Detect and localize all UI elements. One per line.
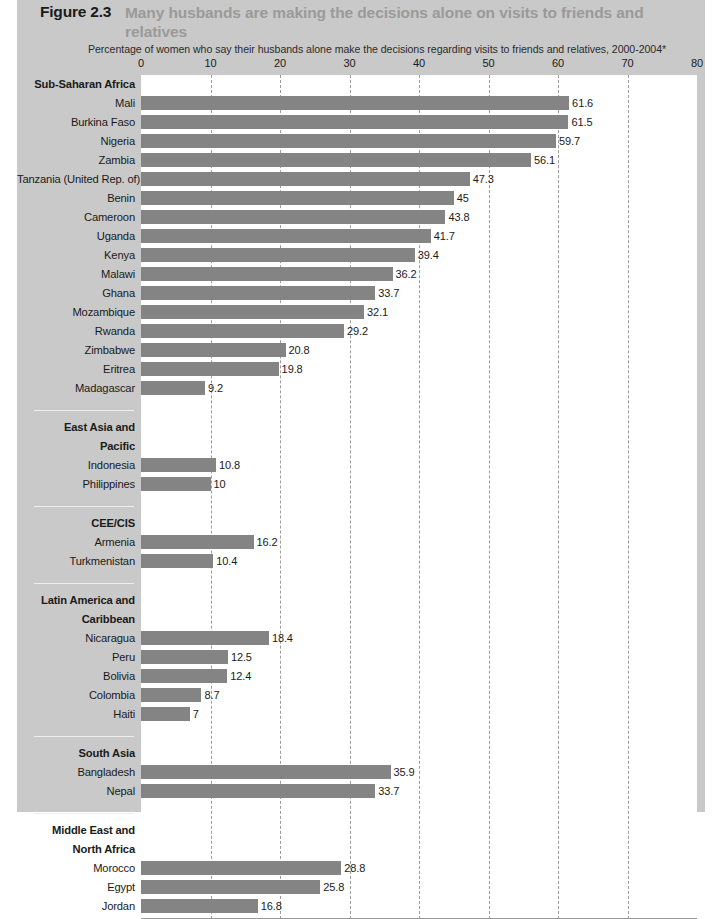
data-bar[interactable] bbox=[141, 880, 320, 894]
chart-row[interactable]: Ghana33.7 bbox=[0, 284, 721, 303]
chart-row[interactable]: Indonesia10.8 bbox=[0, 456, 721, 475]
chart-row[interactable]: Burkina Faso61.5 bbox=[0, 113, 721, 132]
bar-value-label: 20.8 bbox=[289, 341, 310, 360]
data-bar[interactable] bbox=[141, 229, 431, 243]
bar-value-label: 41.7 bbox=[434, 227, 455, 246]
country-label: Benin bbox=[17, 189, 135, 208]
chart-row[interactable]: Uganda41.7 bbox=[0, 227, 721, 246]
data-bar[interactable] bbox=[141, 286, 375, 300]
bar-value-label: 16.2 bbox=[257, 533, 278, 552]
data-bar[interactable] bbox=[141, 784, 375, 798]
chart-row[interactable]: Madagascar9.2 bbox=[0, 379, 721, 398]
data-bar[interactable] bbox=[141, 535, 254, 549]
country-label: Philippines bbox=[17, 475, 135, 494]
x-tick-label: 80 bbox=[682, 57, 712, 69]
region-label: East Asia and bbox=[17, 418, 135, 437]
bar-value-label: 19.8 bbox=[282, 360, 303, 379]
country-label: Zimbabwe bbox=[17, 341, 135, 360]
bar-value-label: 43.8 bbox=[448, 208, 469, 227]
country-label: Mozambique bbox=[17, 303, 135, 322]
region-heading-row: South Asia bbox=[0, 744, 721, 763]
region-separator bbox=[34, 736, 134, 737]
chart-row[interactable]: Egypt25.8 bbox=[0, 878, 721, 897]
data-bar[interactable] bbox=[141, 96, 569, 110]
data-bar[interactable] bbox=[141, 381, 205, 395]
bar-value-label: 28.8 bbox=[344, 859, 365, 878]
country-label: Nepal bbox=[17, 782, 135, 801]
chart-row[interactable]: Nigeria59.7 bbox=[0, 132, 721, 151]
chart-row[interactable]: Mali61.6 bbox=[0, 94, 721, 113]
chart-row[interactable]: Nepal33.7 bbox=[0, 782, 721, 801]
data-bar[interactable] bbox=[141, 477, 211, 491]
data-bar[interactable] bbox=[141, 688, 201, 702]
chart-row[interactable]: Mozambique32.1 bbox=[0, 303, 721, 322]
data-bar[interactable] bbox=[141, 631, 269, 645]
data-bar[interactable] bbox=[141, 362, 279, 376]
chart-row[interactable]: Bangladesh35.9 bbox=[0, 763, 721, 782]
x-tick-label: 70 bbox=[613, 57, 643, 69]
bar-value-label: 36.2 bbox=[396, 265, 417, 284]
chart-row[interactable]: Armenia16.2 bbox=[0, 533, 721, 552]
chart-row[interactable]: Zambia56.1 bbox=[0, 151, 721, 170]
data-bar[interactable] bbox=[141, 210, 445, 224]
bar-value-label: 9.2 bbox=[208, 379, 223, 398]
data-bar[interactable] bbox=[141, 267, 393, 281]
data-bar[interactable] bbox=[141, 115, 568, 129]
country-label: Turkmenistan bbox=[17, 552, 135, 571]
data-bar[interactable] bbox=[141, 305, 364, 319]
bar-value-label: 10 bbox=[214, 475, 226, 494]
bar-value-label: 45 bbox=[457, 189, 469, 208]
data-bar[interactable] bbox=[141, 650, 228, 664]
chart-row[interactable]: Haiti7 bbox=[0, 705, 721, 724]
region-label: CEE/CIS bbox=[17, 514, 135, 533]
chart-row[interactable]: Peru12.5 bbox=[0, 648, 721, 667]
data-bar[interactable] bbox=[141, 707, 190, 721]
chart-row[interactable]: Philippines10 bbox=[0, 475, 721, 494]
data-bar[interactable] bbox=[141, 899, 258, 913]
bar-value-label: 56.1 bbox=[534, 151, 555, 170]
bar-value-label: 12.4 bbox=[230, 667, 251, 686]
data-bar[interactable] bbox=[141, 458, 216, 472]
bar-value-label: 33.7 bbox=[378, 284, 399, 303]
chart-row[interactable]: Zimbabwe20.8 bbox=[0, 341, 721, 360]
bar-value-label: 25.8 bbox=[323, 878, 344, 897]
country-label: Tanzania (United Rep. of) bbox=[17, 170, 135, 189]
data-bar[interactable] bbox=[141, 191, 454, 205]
chart-row[interactable]: Colombia8.7 bbox=[0, 686, 721, 705]
country-label: Uganda bbox=[17, 227, 135, 246]
bar-value-label: 7 bbox=[193, 705, 199, 724]
data-bar[interactable] bbox=[141, 765, 391, 779]
x-tick-label: 50 bbox=[474, 57, 504, 69]
data-bar[interactable] bbox=[141, 248, 415, 262]
chart-row[interactable]: Jordan16.8 bbox=[0, 897, 721, 916]
chart-row[interactable]: Tanzania (United Rep. of)47.3 bbox=[0, 170, 721, 189]
chart-row[interactable]: Benin45 bbox=[0, 189, 721, 208]
country-label: Kenya bbox=[17, 246, 135, 265]
country-label: Bolivia bbox=[17, 667, 135, 686]
figure-number: Figure 2.3 bbox=[40, 3, 125, 21]
region-separator bbox=[34, 410, 134, 411]
data-bar[interactable] bbox=[141, 669, 227, 683]
data-bar[interactable] bbox=[141, 343, 286, 357]
chart-row[interactable]: Eritrea19.8 bbox=[0, 360, 721, 379]
chart-row[interactable]: Bolivia12.4 bbox=[0, 667, 721, 686]
data-bar[interactable] bbox=[141, 324, 344, 338]
country-label: Peru bbox=[17, 648, 135, 667]
bar-value-label: 32.1 bbox=[367, 303, 388, 322]
x-tick-label: 10 bbox=[196, 57, 226, 69]
chart-row[interactable]: Morocco28.8 bbox=[0, 859, 721, 878]
chart-row[interactable]: Nicaragua18.4 bbox=[0, 629, 721, 648]
data-bar[interactable] bbox=[141, 172, 470, 186]
region-separator bbox=[34, 506, 134, 507]
data-bar[interactable] bbox=[141, 134, 556, 148]
chart-row[interactable]: Turkmenistan10.4 bbox=[0, 552, 721, 571]
data-bar[interactable] bbox=[141, 153, 531, 167]
chart-row[interactable]: Kenya39.4 bbox=[0, 246, 721, 265]
chart-row[interactable]: Cameroon43.8 bbox=[0, 208, 721, 227]
data-bar[interactable] bbox=[141, 861, 341, 875]
country-label: Armenia bbox=[17, 533, 135, 552]
chart-row[interactable]: Rwanda29.2 bbox=[0, 322, 721, 341]
data-bar[interactable] bbox=[141, 554, 213, 568]
chart-row[interactable]: Malawi36.2 bbox=[0, 265, 721, 284]
x-axis-tick-labels: 01020304050607080 bbox=[0, 57, 721, 73]
